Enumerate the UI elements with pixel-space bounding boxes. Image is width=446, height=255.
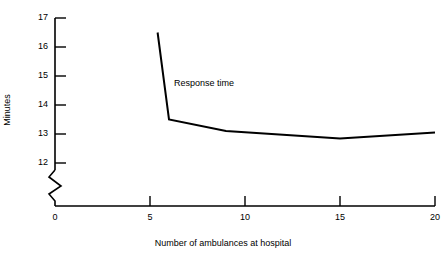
y-tick-label-16: 16: [22, 42, 48, 51]
y-tick-label-14: 14: [22, 100, 48, 109]
y-tick-label-13: 13: [22, 129, 48, 138]
series-annotation-response-time: Response time: [174, 78, 234, 88]
x-tick-label-5: 5: [138, 213, 162, 222]
y-tick-label-17: 17: [22, 13, 48, 22]
x-axis-ticks: [150, 196, 435, 206]
x-tick-label-10: 10: [233, 213, 257, 222]
chart-container: 17 16 15 14 13 12 0 5 10 15 20 Minutes N…: [0, 0, 446, 255]
x-axis-title: Number of ambulances at hospital: [0, 238, 446, 248]
y-tick-label-15: 15: [22, 71, 48, 80]
y-axis-ticks: [55, 18, 66, 163]
y-tick-label-12: 12: [22, 158, 48, 167]
x-tick-label-0: 0: [43, 213, 67, 222]
y-axis-title: Minutes: [2, 85, 12, 135]
y-axis-break-symbol: [49, 170, 61, 206]
x-tick-label-15: 15: [328, 213, 352, 222]
x-tick-label-20: 20: [423, 213, 446, 222]
